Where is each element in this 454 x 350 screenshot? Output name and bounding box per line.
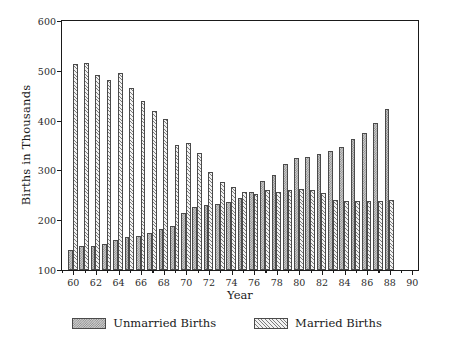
bar-married-83 xyxy=(333,200,338,270)
x-axis-tick-mark xyxy=(220,270,221,273)
bar-married-86 xyxy=(367,201,372,270)
bar-married-79 xyxy=(288,190,293,270)
x-axis-tick-mark xyxy=(254,270,255,275)
bar-married-88 xyxy=(389,200,394,270)
x-axis-tick-mark xyxy=(401,270,402,273)
bar-married-65 xyxy=(129,88,134,270)
x-axis-tick-mark xyxy=(73,270,74,275)
y-axis-tick-label: 300 xyxy=(30,165,56,176)
x-axis-tick-mark xyxy=(141,270,142,275)
y-axis-tick-mark xyxy=(57,220,62,221)
x-axis-tick-mark xyxy=(175,270,176,273)
bar-married-66 xyxy=(141,101,146,270)
x-axis-tick-mark xyxy=(345,270,346,275)
x-axis-tick-mark xyxy=(232,270,233,275)
bar-married-63 xyxy=(107,80,112,270)
x-axis-tick-mark xyxy=(356,270,357,273)
x-axis-tick-mark xyxy=(390,270,391,275)
legend-item-unmarried-births: Unmarried Births xyxy=(72,316,216,330)
bar-married-71 xyxy=(197,153,202,270)
legend-swatch-unmarried-icon xyxy=(72,318,106,329)
legend-label-unmarried: Unmarried Births xyxy=(113,316,216,330)
bar-married-77 xyxy=(265,190,270,270)
x-axis-tick-mark xyxy=(322,270,323,275)
x-axis-tick-mark xyxy=(164,270,165,275)
x-axis-tick-mark xyxy=(186,270,187,275)
x-axis-tick-mark xyxy=(265,270,266,273)
bar-married-60 xyxy=(73,64,78,270)
x-axis-tick-mark xyxy=(85,270,86,273)
x-axis-tick-mark xyxy=(367,270,368,275)
y-axis-tick-label: 500 xyxy=(30,65,56,76)
bar-married-87 xyxy=(378,201,383,270)
bar-married-61 xyxy=(84,63,89,270)
y-axis-tick-mark xyxy=(57,71,62,72)
bar-married-80 xyxy=(299,189,304,270)
y-axis-title: Births in Thousands xyxy=(19,55,33,235)
x-axis-tick-mark xyxy=(130,270,131,273)
y-axis-tick-mark xyxy=(57,21,62,22)
x-axis-tick-mark xyxy=(311,270,312,273)
bar-married-70 xyxy=(186,143,191,270)
y-axis-tick-mark xyxy=(57,121,62,122)
bar-married-68 xyxy=(163,119,168,270)
y-axis-tick-label: 100 xyxy=(30,265,56,276)
bar-married-69 xyxy=(175,145,180,270)
x-axis-tick-mark xyxy=(378,270,379,273)
x-axis-tick-label: 90 xyxy=(398,277,426,288)
x-axis-tick-mark xyxy=(198,270,199,273)
legend-swatch-married-icon xyxy=(254,318,288,329)
x-axis-tick-mark xyxy=(243,270,244,273)
x-axis-tick-mark xyxy=(412,270,413,275)
x-axis-tick-mark xyxy=(107,270,108,273)
bar-married-82 xyxy=(321,193,326,270)
y-axis-tick-mark xyxy=(57,170,62,171)
births-bar-chart-figure: Births in Thousands 10020030040050060060… xyxy=(0,0,454,350)
x-axis-tick-mark xyxy=(299,270,300,275)
bar-married-64 xyxy=(118,73,123,270)
bar-married-67 xyxy=(152,111,157,270)
bar-married-84 xyxy=(344,201,349,270)
x-axis-tick-mark xyxy=(333,270,334,273)
x-axis-tick-mark xyxy=(152,270,153,273)
bar-married-78 xyxy=(276,192,281,270)
plot-area: 1002003004005006006062646668707274767880… xyxy=(61,20,419,271)
bar-married-72 xyxy=(208,172,213,270)
bar-married-75 xyxy=(242,192,247,270)
x-axis-tick-mark xyxy=(288,270,289,273)
y-axis-tick-label: 400 xyxy=(30,115,56,126)
bar-married-76 xyxy=(254,194,259,270)
y-axis-tick-label: 600 xyxy=(30,16,56,27)
x-axis-title: Year xyxy=(61,288,419,302)
bar-married-81 xyxy=(310,190,315,270)
x-axis-tick-mark xyxy=(96,270,97,275)
bar-married-74 xyxy=(231,187,236,270)
bar-married-73 xyxy=(220,182,225,270)
bars-container xyxy=(62,21,418,270)
x-axis-tick-mark xyxy=(119,270,120,275)
chart-legend: Unmarried Births Married Births xyxy=(0,316,454,330)
x-axis-tick-mark xyxy=(209,270,210,275)
bar-married-62 xyxy=(95,75,100,270)
legend-item-married-births: Married Births xyxy=(254,316,382,330)
y-axis-tick-label: 200 xyxy=(30,215,56,226)
x-axis-tick-mark xyxy=(277,270,278,275)
legend-label-married: Married Births xyxy=(295,316,382,330)
bar-married-85 xyxy=(355,201,360,270)
x-axis-tick-mark xyxy=(62,270,63,273)
